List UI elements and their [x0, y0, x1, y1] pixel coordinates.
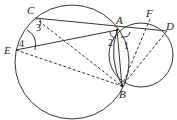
angle-label-1: 1 [124, 40, 129, 51]
segment-EB [16, 50, 122, 86]
point-B [121, 85, 124, 88]
label-F: F [145, 7, 153, 19]
label-C: C [27, 4, 35, 16]
label-B: B [119, 88, 126, 100]
label-D: D [165, 20, 174, 32]
angle-label-3: 3 [36, 22, 41, 33]
label-E: E [3, 44, 11, 56]
label-A: A [115, 14, 123, 26]
angle-label-2: 2 [108, 37, 113, 48]
angle-label-4: 4 [19, 38, 24, 49]
geometry-diagram: C A F D E B 3 4 2 1 [0, 0, 177, 120]
segment-FB [122, 19, 150, 86]
point-A [116, 29, 119, 32]
